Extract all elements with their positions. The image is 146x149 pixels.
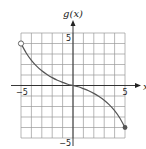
x-axis-arrow-icon: [135, 83, 141, 88]
y-tick-label: 5: [66, 34, 71, 43]
x-tick-label: 5: [122, 88, 127, 97]
axes: [11, 20, 141, 146]
tick-labels: −555−5: [16, 34, 127, 148]
x-tick-label: −5: [16, 88, 28, 97]
open-endpoint: [18, 41, 23, 46]
closed-endpoint: [123, 125, 128, 130]
x-axis-label: x: [143, 81, 146, 92]
y-tick-label: −5: [59, 139, 71, 148]
graph-of-g: x g(x) −555−5: [0, 0, 146, 149]
y-axis-label: g(x): [63, 8, 83, 19]
y-axis-arrow-icon: [71, 20, 76, 26]
